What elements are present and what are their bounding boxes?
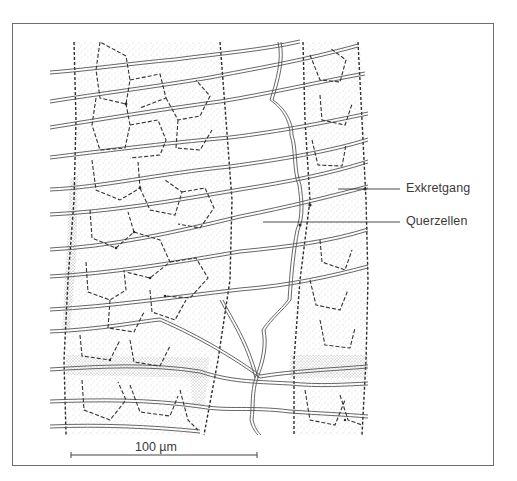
- cell-drawing: [0, 0, 517, 481]
- querzellen-label: Querzellen: [406, 215, 467, 228]
- exkretgang-label: Exkretgang: [406, 182, 470, 195]
- scale-bar-label: 100 µm: [135, 441, 177, 454]
